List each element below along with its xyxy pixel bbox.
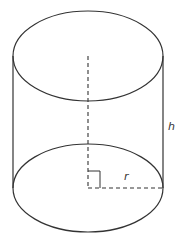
radius-label: r bbox=[124, 170, 130, 183]
cylinder-diagram: h r bbox=[0, 0, 180, 246]
height-label: h bbox=[168, 120, 175, 133]
right-angle-marker bbox=[88, 171, 100, 188]
